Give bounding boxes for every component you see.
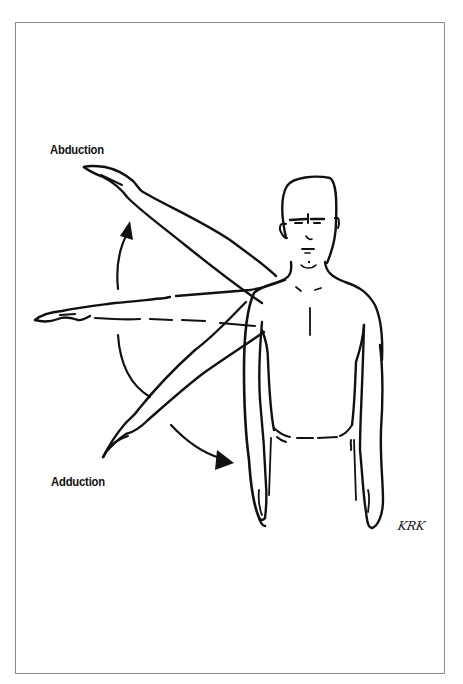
artist-signature: KRK xyxy=(397,519,426,533)
abduction-arrow xyxy=(117,221,133,289)
label-abduction: Abduction xyxy=(50,143,104,157)
head xyxy=(280,177,339,268)
label-adduction: Adduction xyxy=(51,475,105,489)
arm-raised-diagonal xyxy=(84,166,276,303)
right-arm-at-side xyxy=(360,325,383,528)
left-arm-at-side xyxy=(244,293,266,526)
shoulder-motion-illustration xyxy=(0,0,463,684)
adduction-arrow xyxy=(118,335,234,470)
